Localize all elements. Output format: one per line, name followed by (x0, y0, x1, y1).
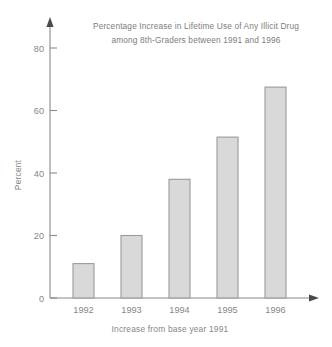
x-tick-label-1994: 1994 (169, 305, 189, 315)
bar-1996[interactable] (265, 87, 286, 298)
chart-canvas: Percentage Increase in Lifetime Use of A… (0, 0, 332, 347)
y-axis-label: Percent (13, 159, 23, 190)
bar-1992[interactable] (73, 264, 94, 298)
bar-1994[interactable] (169, 179, 190, 298)
y-tick-label-20: 20 (34, 231, 44, 241)
chart-title-line-1: Percentage Increase in Lifetime Use of A… (93, 21, 299, 31)
y-axis-arrow-icon (46, 17, 53, 27)
bar-chart-figure: Percentage Increase in Lifetime Use of A… (0, 0, 332, 347)
x-tick-label-1995: 1995 (217, 305, 237, 315)
chart-title-line-2: among 8th-Graders between 1991 and 1996 (111, 35, 280, 45)
x-tick-label-1993: 1993 (121, 305, 141, 315)
y-tick-label-40: 40 (34, 169, 44, 179)
y-tick-label-80: 80 (34, 44, 44, 54)
x-tick-label-1996: 1996 (265, 305, 285, 315)
y-tick-label-60: 60 (34, 106, 44, 116)
x-axis-label: Increase from base year 1991 (112, 324, 229, 334)
y-tick-label-0: 0 (39, 294, 44, 304)
bar-1993[interactable] (121, 236, 142, 299)
bar-1995[interactable] (217, 137, 238, 298)
x-tick-label-1992: 1992 (73, 305, 93, 315)
x-axis-arrow-icon (309, 294, 319, 301)
